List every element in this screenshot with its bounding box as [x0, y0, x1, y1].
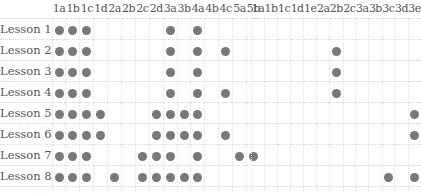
cell-1a — [252, 40, 265, 61]
column-header-3a: 3a — [356, 0, 369, 19]
cell-3b — [369, 145, 382, 166]
dot-marker-icon — [82, 131, 91, 140]
dot-marker-icon — [68, 89, 77, 98]
cell-4c — [219, 19, 233, 40]
cell-1d — [291, 166, 304, 187]
cell-2d — [149, 19, 163, 40]
row-label: Lesson 7 — [0, 145, 52, 166]
column-header-4a: 4a — [191, 0, 205, 19]
cell-3e — [408, 82, 421, 103]
cell-1b — [66, 145, 80, 166]
cell-4a — [191, 82, 205, 103]
cell-2b — [330, 166, 343, 187]
dot-marker-icon — [384, 173, 393, 182]
cell-1c — [80, 61, 94, 82]
cell-3b — [177, 82, 191, 103]
cell-3d — [395, 145, 408, 166]
row-label: Lesson 1 — [0, 19, 52, 40]
cell-4a — [191, 187, 205, 193]
cell-1d — [94, 82, 108, 103]
cell-2c — [343, 19, 356, 40]
cell-1c — [80, 19, 94, 40]
cell-2a — [108, 103, 122, 124]
dot-marker-icon — [152, 173, 161, 182]
cell-1e — [304, 82, 317, 103]
cell-1b — [66, 40, 80, 61]
cell-3a — [356, 145, 369, 166]
cell-1c — [278, 145, 291, 166]
dot-marker-icon — [193, 152, 202, 161]
cell-2b — [122, 166, 136, 187]
cell-3b — [177, 124, 191, 145]
cell-2c — [135, 187, 149, 193]
cell-1d — [291, 82, 304, 103]
cell-2c — [135, 124, 149, 145]
cell-1b — [264, 166, 277, 187]
cell-3e — [408, 61, 421, 82]
cell-2b — [330, 61, 343, 82]
cell-3d — [395, 61, 408, 82]
dot-marker-icon — [82, 26, 91, 35]
cell-3b — [369, 124, 382, 145]
column-header-3c: 3c — [382, 0, 395, 19]
column-header-4b: 4b — [205, 0, 219, 19]
cell-2b — [330, 103, 343, 124]
dot-marker-icon — [221, 131, 230, 140]
cell-1b — [66, 166, 80, 187]
cell-1a — [252, 103, 265, 124]
cell-3b — [177, 40, 191, 61]
cell-1c — [80, 166, 94, 187]
table-row — [252, 103, 421, 124]
dot-marker-icon — [82, 110, 91, 119]
dot-marker-icon — [166, 68, 175, 77]
cell-2c — [343, 145, 356, 166]
cell-3b — [369, 166, 382, 187]
cell-1b — [264, 187, 277, 193]
cell-1b — [66, 187, 80, 193]
dot-marker-icon — [55, 47, 64, 56]
cell-4c — [219, 145, 233, 166]
dot-marker-icon — [180, 110, 189, 119]
cell-1a — [52, 145, 66, 166]
cell-2c — [135, 103, 149, 124]
cell-1b — [66, 19, 80, 40]
column-header-2a: 2a — [317, 0, 330, 19]
cell-2b — [122, 82, 136, 103]
cell-1b — [264, 40, 277, 61]
cell-1e — [304, 166, 317, 187]
cell-3a — [356, 124, 369, 145]
column-header-3e: 3e — [408, 0, 421, 19]
cell-1c — [278, 124, 291, 145]
cell-2b — [122, 40, 136, 61]
cell-2b — [330, 40, 343, 61]
dot-marker-icon — [138, 152, 147, 161]
cell-4a — [191, 40, 205, 61]
cell-4c — [219, 82, 233, 103]
cell-3b — [177, 61, 191, 82]
cell-2d — [149, 166, 163, 187]
cell-1e — [304, 19, 317, 40]
cell-1d — [94, 145, 108, 166]
cell-3a — [163, 82, 177, 103]
cell-2b — [122, 124, 136, 145]
column-header-2d: 2d — [149, 0, 163, 19]
cell-1a — [252, 82, 265, 103]
cell-1c — [278, 40, 291, 61]
dot-marker-icon — [152, 110, 161, 119]
cell-3b — [369, 40, 382, 61]
cell-2a — [317, 166, 330, 187]
row-label: Lesson 4 — [0, 82, 52, 103]
cell-3d — [395, 124, 408, 145]
row-label: Lesson 9 — [0, 187, 52, 193]
cell-1d — [94, 166, 108, 187]
column-header-3b: 3b — [369, 0, 382, 19]
cell-4b — [205, 82, 219, 103]
cell-2c — [343, 103, 356, 124]
cell-2a — [108, 145, 122, 166]
cell-1b — [66, 103, 80, 124]
cell-2c — [135, 82, 149, 103]
row-label: Lesson 6 — [0, 124, 52, 145]
right-matrix: 1a1b1c1d1e2a2b2c3a3b3c3d3e — [251, 0, 421, 192]
cell-5a — [233, 187, 247, 193]
dot-marker-icon — [410, 131, 419, 140]
